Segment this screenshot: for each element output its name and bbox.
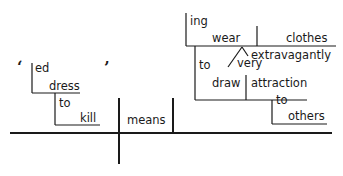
close-quote: ’ — [104, 58, 110, 77]
open-quote: ‘ — [17, 58, 23, 77]
subject-infinitive-verb: kill — [80, 111, 96, 125]
prep-object: others — [288, 109, 325, 123]
modifier-extravagantly-line — [242, 47, 248, 56]
sentence-diagram: ‘ ’ ed dress to kill means ing wear clot… — [0, 0, 343, 176]
subject-suffix: ed — [35, 61, 49, 75]
complement-object: clothes — [286, 31, 327, 45]
purpose-marker: to — [199, 58, 211, 72]
subject-verb: dress — [49, 79, 80, 93]
modifier-extravagantly: extravagantly — [251, 48, 331, 62]
complement-suffix: ing — [190, 14, 208, 28]
subject-infinitive-marker: to — [59, 96, 71, 110]
prep: to — [276, 93, 288, 107]
purpose-verb: draw — [212, 76, 240, 90]
purpose-object: attraction — [251, 76, 307, 90]
complement-verb: wear — [212, 31, 241, 45]
predicate-verb: means — [127, 113, 166, 127]
modifier-very: very — [237, 56, 263, 70]
